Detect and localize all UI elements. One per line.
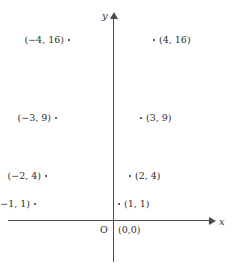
point-marker-dot-icon bbox=[129, 175, 131, 177]
point-marker-dot-icon bbox=[45, 175, 47, 177]
point-coordinate-label: (−4, 16) bbox=[24, 35, 64, 45]
point-marker-dot-icon bbox=[153, 39, 155, 41]
point-coordinate-label: (−1, 1) bbox=[0, 199, 30, 209]
point-coordinate-label: (−2, 4) bbox=[7, 171, 41, 181]
plotted-point: (4, 16) bbox=[153, 35, 191, 45]
x-axis-line bbox=[8, 220, 212, 221]
coordinate-plane-figure: x y O (0,0) (−4, 16)(4, 16)(−3, 9)(3, 9)… bbox=[0, 0, 235, 268]
point-marker-dot-icon bbox=[118, 203, 120, 205]
point-coordinate-label: (−3, 9) bbox=[17, 113, 51, 123]
x-axis-label: x bbox=[219, 216, 225, 227]
point-marker-dot-icon bbox=[55, 117, 57, 119]
point-marker-dot-icon bbox=[68, 39, 70, 41]
plotted-point: (−4, 16) bbox=[24, 35, 70, 45]
plotted-point: (−1, 1) bbox=[0, 199, 36, 209]
plotted-point: (3, 9) bbox=[140, 113, 172, 123]
origin-point-label: (0,0) bbox=[118, 224, 141, 235]
point-coordinate-label: (2, 4) bbox=[135, 171, 161, 181]
y-axis-label: y bbox=[102, 10, 108, 21]
point-coordinate-label: (1, 1) bbox=[124, 199, 150, 209]
plotted-point: (−2, 4) bbox=[7, 171, 47, 181]
x-axis-arrow-icon bbox=[209, 217, 216, 225]
origin-letter: O bbox=[100, 224, 108, 235]
plotted-point: (2, 4) bbox=[129, 171, 161, 181]
point-marker-dot-icon bbox=[140, 117, 142, 119]
point-coordinate-label: (3, 9) bbox=[146, 113, 172, 123]
plotted-point: (−3, 9) bbox=[17, 113, 57, 123]
y-axis-arrow-icon bbox=[110, 12, 118, 19]
point-coordinate-label: (4, 16) bbox=[159, 35, 191, 45]
plotted-point: (1, 1) bbox=[118, 199, 150, 209]
y-axis-line bbox=[113, 18, 114, 262]
point-marker-dot-icon bbox=[34, 203, 36, 205]
